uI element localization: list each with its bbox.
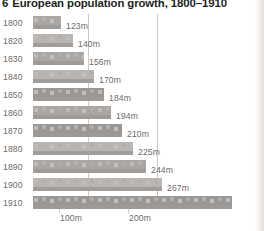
chart-title-text: European population growth, 1800–1910: [12, 0, 227, 9]
bar-value-label: 156m: [89, 57, 111, 67]
year-label: 1880: [3, 140, 31, 158]
bar-value-label: 194m: [116, 111, 138, 121]
bar-value-label: 267m: [167, 183, 189, 193]
page-title: 6European population growth, 1800–1910: [2, 0, 262, 9]
tick-mark: [59, 209, 60, 213]
year-label: 1900: [3, 176, 31, 194]
bar[interactable]: [33, 124, 122, 137]
bar-base: [33, 79, 94, 83]
bar[interactable]: [33, 88, 104, 101]
year-label: 1800: [3, 14, 31, 32]
bar-value-label: 210m: [127, 129, 149, 139]
bar[interactable]: [33, 106, 111, 119]
tick-mark: [128, 209, 129, 213]
axis-tick-100m: 100m: [60, 213, 82, 223]
bar-base: [33, 169, 146, 173]
bar[interactable]: [33, 160, 146, 173]
bar-value-label: 225m: [138, 147, 160, 157]
bar-value-label: 123m: [66, 21, 88, 31]
year-label: 1860: [3, 104, 31, 122]
bar-value-label: 140m: [78, 39, 100, 49]
plot-area: 1800 123m 1820 140m 1830 156m 1840: [0, 14, 264, 213]
bar[interactable]: [33, 70, 94, 83]
bar-base: [33, 25, 61, 29]
x-axis: 100m 200m: [0, 213, 264, 231]
bar[interactable]: [33, 52, 84, 65]
bar[interactable]: [33, 34, 73, 47]
bar[interactable]: [33, 178, 162, 191]
bar[interactable]: [33, 16, 61, 29]
year-label: 1830: [3, 50, 31, 68]
axis-tick-label: 200m: [129, 213, 151, 223]
figure-number: 6: [2, 0, 8, 9]
year-label: 1870: [3, 122, 31, 140]
axis-tick-label: 100m: [60, 213, 82, 223]
bar-base: [33, 115, 111, 119]
year-label: 1820: [3, 32, 31, 50]
chart-card: 6European population growth, 1800–1910 1…: [0, 0, 264, 231]
bar-base: [33, 205, 232, 209]
bar-value-label: 244m: [151, 165, 173, 175]
bar[interactable]: [33, 196, 232, 209]
bar-base: [33, 151, 133, 155]
year-label: 1910: [3, 194, 31, 212]
year-label: 1850: [3, 86, 31, 104]
year-label: 1840: [3, 68, 31, 86]
bar-base: [33, 43, 73, 47]
bar-value-label: 184m: [109, 93, 131, 103]
bar[interactable]: [33, 142, 133, 155]
year-label: 1890: [3, 158, 31, 176]
bar-base: [33, 133, 122, 137]
bar-base: [33, 61, 84, 65]
axis-tick-200m: 200m: [129, 213, 151, 223]
bar-value-label: 170m: [99, 75, 121, 85]
bar-base: [33, 97, 104, 101]
bar-base: [33, 187, 162, 191]
